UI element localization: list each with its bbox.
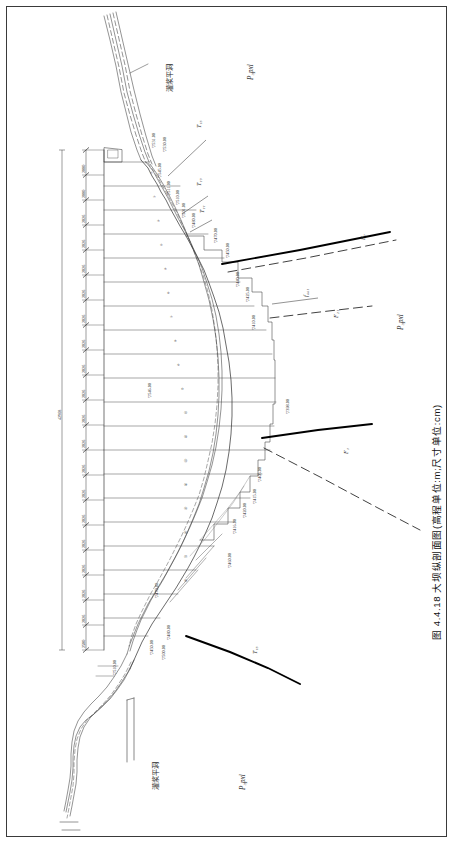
elevation-label: ▽460.00 — [228, 553, 232, 568]
elevation-label: ▽420.00 — [243, 503, 247, 518]
dimension-segment: 2026 — [82, 414, 86, 422]
dimension-segment: 2026 — [82, 214, 86, 222]
dimension-segment: 2026 — [82, 489, 86, 497]
elevation-label: ▽470.00 — [214, 228, 218, 243]
figure-caption: 图 4.4.18 大坝纵剖面图(高程单位:m;尺寸单位:cm) — [432, 404, 442, 640]
formation-label: T₁₁ — [199, 205, 205, 213]
elevation-label: ▽450.00 — [150, 640, 154, 655]
dimension-segment: 2026 — [82, 439, 86, 447]
grout-adit-label-top: 灌浆平洞 — [166, 64, 173, 92]
elevation-label: ▽425.00 — [246, 287, 250, 302]
elevation-label: ▽531.00 — [152, 133, 156, 148]
dimension-segment: 2026 — [82, 314, 86, 322]
elevation-label: ▽450.00 — [226, 243, 230, 258]
fault-label: F₁ — [343, 448, 349, 454]
dimension-segment: 2026 — [82, 389, 86, 397]
dimension-segment: 2026 — [82, 339, 86, 347]
dam-block-number: ⑦ — [170, 316, 173, 319]
elevation-label: ▽398.00 — [286, 399, 290, 414]
dam-block-number: ⑭ — [184, 484, 187, 487]
dimension-segment: 2026 — [82, 464, 86, 472]
dam-block-number: ⑰ — [184, 556, 187, 559]
elevation-label: ▽410.00 — [252, 315, 256, 330]
elevation-label: ▽545.00 — [158, 163, 162, 178]
dimension-segment: 2000 — [82, 189, 86, 197]
elevation-label: ▽480.00 — [192, 213, 196, 228]
dimension-segment: 2026 — [82, 539, 86, 547]
elevation-label: ▽416.00 — [233, 519, 237, 534]
fault-label: F₇ — [360, 234, 366, 240]
elevation-label: ▽440.00 — [236, 272, 240, 287]
sheet-border — [6, 6, 447, 837]
dimension-segment: 2026 — [82, 364, 86, 372]
dimension-segment: 2026 — [82, 614, 86, 622]
dimension-segment: 2026 — [82, 564, 86, 572]
elevation-label: ▽470.00 — [155, 583, 159, 598]
dam-block-number: ② — [153, 196, 156, 199]
grout-adit-label-bottom: 灌浆平洞 — [152, 762, 159, 790]
dam-block-number: ⑯ — [184, 532, 187, 535]
dam-block-number: ⑧ — [174, 340, 177, 343]
dam-block-number: ⑪ — [184, 412, 187, 415]
fault-label: F₂₁ — [333, 310, 339, 318]
dam-block-number: ⑤ — [164, 268, 167, 271]
dam-block-number: ⑫ — [184, 436, 187, 439]
dam-block-number: ③ — [157, 220, 160, 223]
elevation-label: ▽500.00 — [162, 645, 166, 660]
fault-label: f₄₄₁ — [303, 289, 309, 297]
dimension-segment: 2000 — [82, 164, 86, 172]
drawing-sheet: 42968 2000200020262026202620262026202620… — [0, 0, 453, 843]
dimension-segment: 2500 — [82, 639, 86, 647]
dimension-segment: 2026 — [82, 289, 86, 297]
dam-block-number: ⑩ — [181, 388, 184, 391]
elevation-label: ▽501.00 — [182, 203, 186, 218]
dam-block-number: ⑮ — [184, 508, 187, 511]
elevation-label: ▽546.00 — [148, 383, 152, 398]
dam-block-number: ① — [150, 172, 153, 175]
elevation-label: ▽405.00 — [258, 467, 262, 482]
dam-block-number: ④ — [160, 244, 163, 247]
overall-dimension-label: 42968 — [58, 410, 62, 420]
elevation-label: ▽530.00 — [163, 137, 167, 152]
dimension-segment: 2026 — [82, 589, 86, 597]
formation-label: T₁₅ — [196, 120, 202, 128]
dam-block-number: ⑥ — [167, 292, 170, 295]
dimension-segment: 2026 — [82, 264, 86, 272]
dam-block-number: ⑱ — [184, 580, 187, 583]
elevation-label: ▽510.00 — [176, 190, 180, 205]
dimension-segment: 2026 — [82, 239, 86, 247]
geology-unit-mid-right: P₃pxl — [398, 314, 405, 330]
elevation-label: ▽480.00 — [167, 625, 171, 640]
dam-block-number: ⑨ — [177, 364, 180, 367]
elevation-label: ▽511.00 — [167, 181, 171, 196]
elevation-label: ▽510.00 — [113, 660, 117, 675]
geology-unit-top-right: P₃pxl — [248, 64, 255, 80]
formation-label: T₁₃ — [196, 178, 202, 186]
dam-block-number: ⑬ — [184, 460, 187, 463]
elevation-label: ▽415.00 — [253, 489, 257, 504]
formation-label: T₁₅ — [252, 646, 258, 654]
dimension-segment: 2026 — [82, 514, 86, 522]
geology-unit-bottom: P₃pxl — [240, 774, 247, 790]
